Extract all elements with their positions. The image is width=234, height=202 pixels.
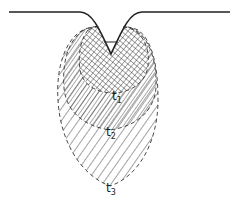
zone-growth-diagram: t1 t2 t3 [0, 0, 234, 202]
zone-t1 [79, 26, 148, 94]
